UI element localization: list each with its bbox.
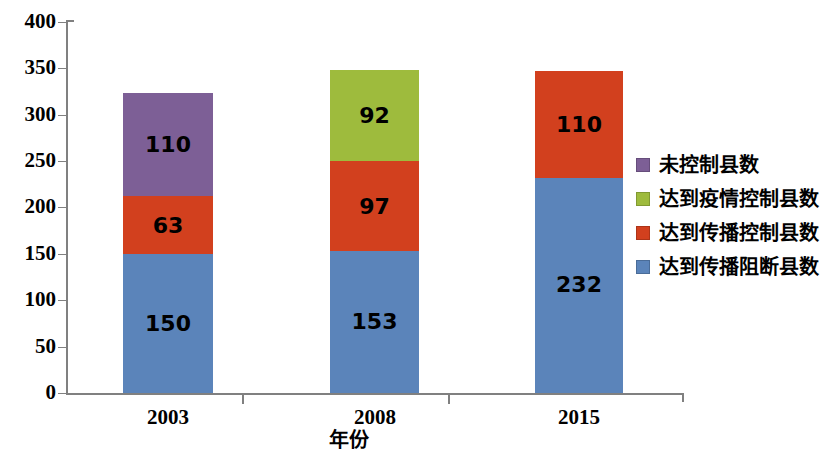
y-tick-350	[58, 68, 67, 69]
y-tick-250	[58, 161, 67, 162]
y-tick-400	[58, 22, 67, 23]
y-tick-100	[58, 300, 67, 301]
y-tick-label-150: 150	[4, 243, 56, 264]
legend-item-uncontrolled[interactable]: 未控制县数	[636, 148, 819, 182]
legend-item-epidemic-control[interactable]: 达到疫情控制县数	[636, 182, 819, 216]
legend-item-transmission-control[interactable]: 达到传播控制县数	[636, 216, 819, 250]
y-tick-50	[58, 347, 67, 348]
bar-2015-segment-blue[interactable]: 232	[535, 178, 623, 393]
y-tick-label-0: 0	[4, 382, 56, 403]
y-tick-label-50: 50	[4, 336, 56, 357]
legend: 未控制县数 达到疫情控制县数 达到传播控制县数 达到传播阻断县数	[636, 148, 819, 284]
bar-2003-segment-blue[interactable]: 150	[123, 254, 213, 393]
legend-swatch-purple-icon	[636, 158, 650, 172]
y-tick-150	[58, 254, 67, 255]
bar-2008-segment-green[interactable]: 92	[330, 70, 419, 161]
bar-2003-value-red: 63	[123, 215, 213, 237]
legend-label-transmission-interruption: 达到传播阻断县数	[659, 257, 819, 277]
stacked-bar-chart: 400 350 300 250 200 150 100 50 0 150 63	[0, 0, 837, 454]
bar-2008-value-green: 92	[330, 105, 419, 127]
x-tick-label-2008: 2008	[315, 407, 435, 428]
x-axis-line	[66, 393, 684, 395]
bar-2008-value-red: 97	[330, 196, 419, 218]
y-tick-300	[58, 115, 67, 116]
bar-2003-value-blue: 150	[123, 313, 213, 335]
y-tick-label-300: 300	[4, 104, 56, 125]
y-tick-label-200: 200	[4, 196, 56, 217]
x-axis-title: 年份	[0, 430, 767, 450]
bar-2008-segment-blue[interactable]: 153	[330, 251, 419, 393]
y-tick-label-250: 250	[4, 150, 56, 171]
legend-label-epidemic-control: 达到疫情控制县数	[659, 189, 819, 209]
legend-label-uncontrolled: 未控制县数	[659, 155, 759, 175]
y-tick-200	[58, 207, 67, 208]
y-tick-label-100: 100	[4, 289, 56, 310]
bar-2008-segment-red[interactable]: 97	[330, 161, 419, 251]
y-tick-label-350: 350	[4, 57, 56, 78]
bar-2003[interactable]: 150 63 110	[123, 93, 213, 393]
bar-2015[interactable]: 232 110	[535, 71, 623, 393]
bar-2015-value-red: 110	[535, 114, 623, 136]
x-tick-label-2003: 2003	[108, 407, 228, 428]
y-axis-top-cap	[66, 20, 74, 22]
legend-swatch-blue-icon	[636, 260, 650, 274]
legend-label-transmission-control: 达到传播控制县数	[659, 223, 819, 243]
bar-2015-segment-red[interactable]: 110	[535, 71, 623, 178]
bar-2003-segment-purple[interactable]: 110	[123, 93, 213, 196]
y-tick-label-400: 400	[4, 11, 56, 32]
x-tick-label-2015: 2015	[519, 407, 639, 428]
x-axis-right-cap	[682, 393, 684, 402]
bar-2003-value-purple: 110	[123, 134, 213, 156]
legend-swatch-green-icon	[636, 192, 650, 206]
bar-2015-value-blue: 232	[535, 274, 623, 296]
legend-swatch-red-icon	[636, 226, 650, 240]
bar-2008-value-blue: 153	[330, 311, 419, 333]
y-tick-0	[58, 393, 67, 394]
bar-2008[interactable]: 153 97 92	[330, 70, 419, 393]
bar-2003-segment-red[interactable]: 63	[123, 196, 213, 254]
x-tick-2	[448, 394, 450, 404]
legend-item-transmission-interruption[interactable]: 达到传播阻断县数	[636, 250, 819, 284]
x-tick-1	[242, 394, 244, 404]
